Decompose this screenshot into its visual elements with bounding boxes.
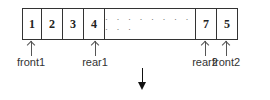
front1-label: front1: [17, 56, 45, 68]
array-ellipsis: · · · · · · · · · · ·: [105, 9, 196, 39]
rear2-up-arrow-icon: [205, 41, 206, 56]
down-arrow-icon: [142, 68, 143, 84]
array-cell-2: 2: [42, 9, 63, 39]
array-cell-5: 5: [217, 9, 237, 39]
rear1-label: rear1: [82, 56, 108, 68]
array-cell-7: 7: [196, 9, 217, 39]
front2-up-arrow-icon: [226, 41, 227, 56]
array-container: 1 2 3 4 · · · · · · · · · · · 7 5: [22, 8, 238, 40]
array-cell-1: 1: [23, 9, 42, 39]
rear1-up-arrow-icon: [95, 41, 96, 56]
array-cell-4: 4: [84, 9, 105, 39]
front1-up-arrow-icon: [31, 41, 32, 56]
array-cell-3: 3: [63, 9, 84, 39]
front2-label: front2: [212, 56, 240, 68]
